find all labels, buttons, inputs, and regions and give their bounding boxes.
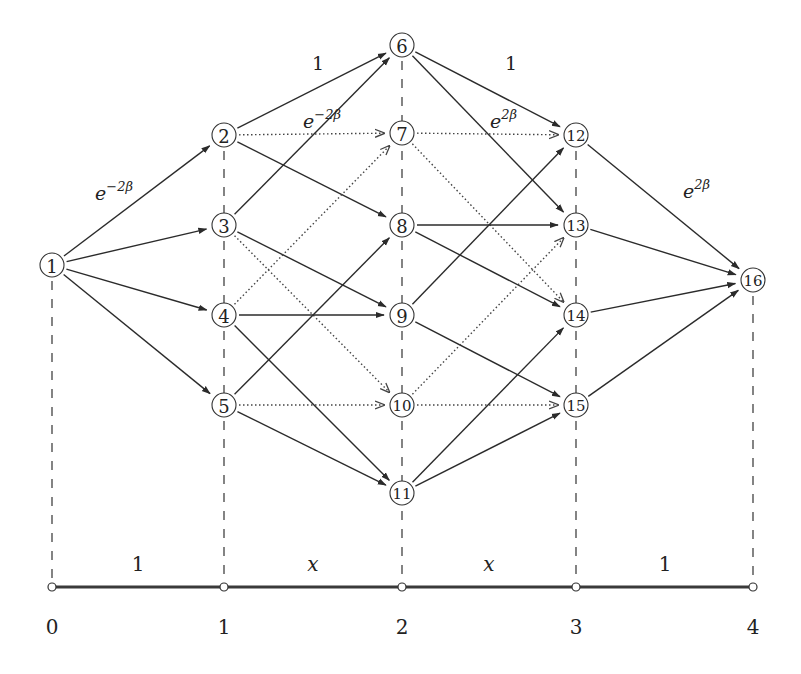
node-label: 6 <box>396 36 407 57</box>
node-label: 12 <box>567 127 586 145</box>
edge-label-w-1-2: e−2β <box>95 179 133 204</box>
node-6: 6 <box>390 33 414 57</box>
node-14: 14 <box>564 303 588 327</box>
node-3: 3 <box>212 213 236 237</box>
edge-9-to-15 <box>415 322 560 397</box>
axis-tick-label-1: 1 <box>218 615 231 639</box>
axis-segment-label-2: x <box>483 552 494 576</box>
edge-3-to-9 <box>237 232 386 307</box>
node-label: 5 <box>218 396 229 417</box>
node-16: 16 <box>741 268 765 292</box>
edge-label-w-2-6: 1 <box>312 52 324 74</box>
edge-label-w-12-16: e2β <box>683 177 710 202</box>
edge-9-to-12 <box>412 148 563 304</box>
node-label: 3 <box>218 216 229 237</box>
node-7: 7 <box>390 121 414 145</box>
node-label: 8 <box>396 216 407 237</box>
node-12: 12 <box>564 123 588 147</box>
node-label: 15 <box>567 397 586 415</box>
axis-tick-label-3: 3 <box>570 615 583 639</box>
edge-6-to-12 <box>415 52 560 127</box>
node-label: 14 <box>567 307 586 325</box>
edge-5-to-8 <box>235 238 390 395</box>
edge-1-to-3 <box>67 229 207 262</box>
axis-segment-label-1: x <box>307 552 318 576</box>
node-8: 8 <box>390 213 414 237</box>
edge-2-to-7 <box>239 133 384 135</box>
node-label: 4 <box>218 306 229 327</box>
edge-4-to-11 <box>235 326 390 481</box>
edge-3-to-10 <box>235 236 390 393</box>
node-label: 16 <box>744 272 763 290</box>
node-2: 2 <box>212 123 236 147</box>
edge-13-to-16 <box>590 229 735 274</box>
node-13: 13 <box>564 213 588 237</box>
layered-graph-diagram: e−2β1e−2β1e2βe2β 12345678910111213141516… <box>0 0 801 674</box>
edge-1-to-2 <box>64 146 210 256</box>
axis-tick-4 <box>749 583 757 591</box>
node-4: 4 <box>212 303 236 327</box>
edge-label-w-2-7: e−2β <box>303 107 341 132</box>
edge-1-to-4 <box>66 269 206 310</box>
node-label: 13 <box>567 217 586 235</box>
node-label: 9 <box>396 306 407 327</box>
edge-15-to-16 <box>588 290 738 396</box>
node-1: 1 <box>40 253 64 277</box>
edge-4-to-7 <box>234 146 389 304</box>
edge-2-to-8 <box>237 142 386 217</box>
edge-11-to-15 <box>415 413 560 486</box>
edge-label-w-7-12: e2β <box>490 107 517 132</box>
edge-1-to-5 <box>64 274 210 393</box>
node-5: 5 <box>212 393 236 417</box>
axis-tick-label-0: 0 <box>46 615 59 639</box>
node-label: 1 <box>46 256 57 277</box>
axis-tick-0 <box>48 583 56 591</box>
node-15: 15 <box>564 393 588 417</box>
axis-tick-3 <box>572 583 580 591</box>
node-label: 11 <box>393 485 412 503</box>
edges <box>64 52 739 486</box>
edge-12-to-16 <box>588 145 739 269</box>
node-label: 2 <box>218 126 229 147</box>
edge-5-to-11 <box>237 412 385 485</box>
edge-3-to-6 <box>235 58 390 215</box>
axis-segment-label-0: 1 <box>132 552 145 576</box>
node-9: 9 <box>390 303 414 327</box>
axis-tick-label-4: 4 <box>747 615 760 639</box>
edge-11-to-14 <box>412 328 563 482</box>
node-10: 10 <box>390 393 414 417</box>
axis-tick-label-2: 2 <box>396 615 409 639</box>
axis-tick-2 <box>398 583 406 591</box>
axis-tick-1 <box>220 583 228 591</box>
axis-segment-label-3: 1 <box>659 552 672 576</box>
node-label: 10 <box>393 397 412 415</box>
edge-label-w-6-12: 1 <box>505 52 517 74</box>
edge-7-to-14 <box>412 144 563 302</box>
edge-8-to-14 <box>415 232 560 307</box>
node-11: 11 <box>390 481 414 505</box>
edge-10-to-13 <box>412 238 563 394</box>
node-label: 7 <box>396 124 407 145</box>
edge-6-to-13 <box>412 56 563 212</box>
